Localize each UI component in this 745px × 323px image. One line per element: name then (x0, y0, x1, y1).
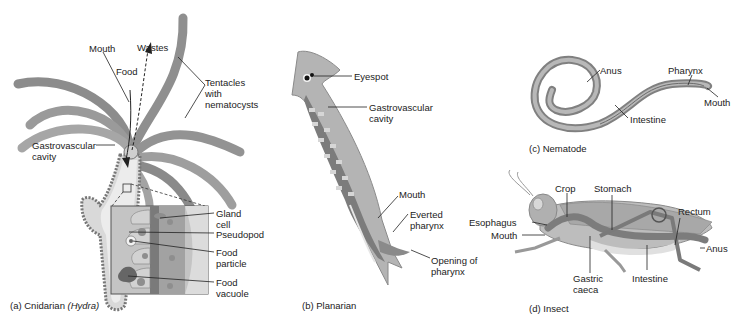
caption-d: (d) Insect (529, 303, 569, 314)
planarian-label-gv-1: Gastrovascular (369, 102, 433, 113)
hydra-label-food: Food (116, 66, 138, 77)
hydra-label-vacuole-2: vacuole (216, 288, 249, 299)
insect-label-gastric-2: caeca (573, 284, 598, 295)
planarian-label-opening-2: pharynx (431, 266, 465, 277)
nematode-label-anus: Anus (600, 65, 622, 76)
insect-label-gastric-1: Gastric (573, 273, 603, 284)
insect-label-rectum: Rectum (678, 206, 711, 217)
insect-label-esophagus: Esophagus (469, 217, 517, 228)
planarian-label-gv-2: cavity (369, 113, 393, 124)
planarian-label-eyespot: Eyespot (354, 71, 388, 82)
planarian-label-everted-1: Everted (410, 209, 443, 220)
hydra-label-gv-1: Gastrovascular (32, 140, 96, 151)
hydra-illustration (18, 18, 240, 310)
planarian-label-opening-1: Opening of (431, 255, 477, 266)
insect-label-crop: Crop (555, 183, 576, 194)
nematode-label-intestine: Intestine (630, 114, 666, 125)
hydra-label-mouth: Mouth (89, 43, 115, 54)
hydra-label-tentacles-3: nematocysts (205, 99, 258, 110)
nematode-label-pharynx: Pharynx (668, 65, 703, 76)
insect-label-stomach: Stomach (594, 183, 632, 194)
insect-label-mouth: Mouth (491, 230, 517, 241)
planarian-illustration (292, 51, 430, 285)
hydra-label-particle-1: Food (216, 247, 238, 258)
caption-c: (c) Nematode (529, 143, 587, 154)
caption-b: (b) Planarian (302, 300, 356, 311)
hydra-label-particle-2: particle (216, 258, 247, 269)
hydra-label-vacuole-1: Food (216, 277, 238, 288)
insect-label-anus: Anus (706, 243, 728, 254)
hydra-label-wastes: Wastes (137, 42, 168, 53)
planarian-label-everted-2: pharynx (410, 220, 444, 231)
hydra-label-tentacles-1: Tentacles (205, 77, 245, 88)
hydra-label-pseudopod: Pseudopod (216, 229, 264, 240)
caption-a-genus: (Hydra) (68, 300, 100, 311)
caption-a-text: (a) Cnidarian (10, 300, 65, 311)
hydra-label-gland-1: Gland (216, 208, 241, 219)
planarian-label-mouth: Mouth (399, 189, 425, 200)
insect-label-intestine: Intestine (632, 273, 668, 284)
nematode-label-mouth: Mouth (704, 97, 730, 108)
hydra-label-gv-2: cavity (32, 151, 56, 162)
caption-a: (a) Cnidarian (Hydra) (10, 300, 99, 311)
hydra-label-tentacles-2: with (205, 88, 222, 99)
